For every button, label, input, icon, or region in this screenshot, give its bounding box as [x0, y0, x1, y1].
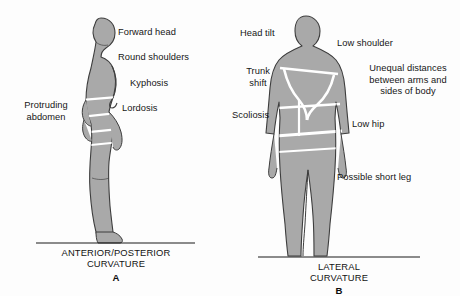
label-unequal-distances: Unequal distances between arms and sides…	[358, 63, 458, 98]
label-round-shoulders: Round shoulders	[118, 52, 189, 64]
caption-panel-a: ANTERIOR/POSTERIOR CURVATURE	[36, 247, 196, 270]
label-kyphosis: Kyphosis	[130, 78, 168, 90]
panel-letter-a: A	[36, 272, 196, 283]
caption-panel-b: LATERAL CURVATURE	[258, 261, 420, 284]
figure-b-silhouette	[258, 16, 420, 257]
label-trunk-shift: Trunk shift	[238, 66, 278, 89]
label-protruding-abdomen: Protruding abdomen	[14, 100, 78, 123]
label-possible-short-leg: Possible short leg	[337, 172, 411, 184]
panel-letter-b: B	[258, 285, 420, 296]
label-forward-head: Forward head	[118, 27, 176, 39]
label-head-tilt: Head tilt	[240, 28, 275, 40]
label-low-hip: Low hip	[352, 119, 384, 131]
label-scoliosis: Scoliosis	[232, 110, 269, 122]
label-low-shoulder: Low shoulder	[337, 38, 393, 50]
label-lordosis: Lordosis	[122, 103, 158, 115]
